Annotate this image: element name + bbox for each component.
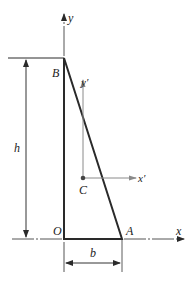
y-axis-label: y [67, 11, 74, 25]
point-B-label: B [52, 66, 60, 80]
x-axis-label: x [175, 224, 182, 238]
centroid-point [81, 176, 86, 181]
point-O-label: O [53, 224, 62, 238]
height-label: h [14, 141, 20, 155]
x-prime-label: x′ [137, 172, 146, 184]
y-prime-label: y′ [80, 76, 89, 88]
triangle-OAB [64, 58, 122, 239]
point-A-label: A [125, 224, 134, 238]
point-C-label: C [79, 183, 88, 197]
triangle-diagram: y x y′ x′ B O A C h b [0, 0, 194, 286]
base-label: b [90, 246, 96, 260]
